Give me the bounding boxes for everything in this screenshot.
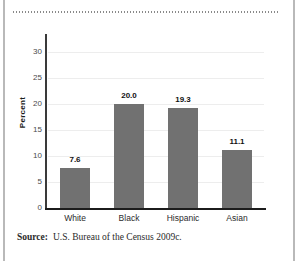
page-left-rule xyxy=(3,0,5,261)
category-label-asian: Asian xyxy=(207,213,267,223)
figure-container: 051015202530 Percent 7.620.019.311.1 Whi… xyxy=(0,0,298,261)
category-label-hispanic: Hispanic xyxy=(153,213,213,223)
source-label: Source: xyxy=(17,232,48,242)
bar-value-label: 11.1 xyxy=(217,138,257,146)
bar-value-label: 19.3 xyxy=(163,96,203,104)
bar-white xyxy=(60,168,90,208)
gridline xyxy=(48,78,264,79)
y-tick-label: 25 xyxy=(20,74,42,82)
category-label-white: White xyxy=(45,213,105,223)
y-tick-label: 5 xyxy=(20,178,42,186)
source-text: U.S. Bureau of the Census 2009c. xyxy=(53,232,182,242)
x-axis-line xyxy=(45,208,266,210)
y-tick-label: 10 xyxy=(20,152,42,160)
dotted-divider xyxy=(13,11,280,13)
bar-chart: 051015202530 Percent 7.620.019.311.1 Whi… xyxy=(14,20,280,215)
gridline xyxy=(48,52,264,53)
bar-hispanic xyxy=(168,108,198,208)
bar-black xyxy=(114,104,144,208)
y-axis-title: Percent xyxy=(18,83,27,143)
y-tick-label: 0 xyxy=(20,204,42,212)
category-label-black: Black xyxy=(99,213,159,223)
y-tick-label: 30 xyxy=(20,48,42,56)
source-line: Source:U.S. Bureau of the Census 2009c. xyxy=(17,232,278,242)
gridline xyxy=(48,130,264,131)
gridline xyxy=(48,104,264,105)
clipped-header-text xyxy=(40,0,220,6)
bar-value-label: 7.6 xyxy=(55,156,95,164)
bar-asian xyxy=(222,150,252,208)
y-axis-line xyxy=(45,34,47,210)
bar-value-label: 20.0 xyxy=(109,92,149,100)
page-right-rule xyxy=(293,0,295,261)
